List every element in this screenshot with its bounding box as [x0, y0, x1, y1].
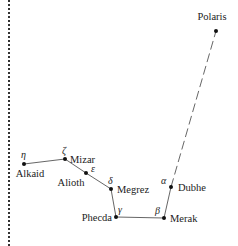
star-megrez-icon	[109, 187, 113, 191]
label-phecda: Phecda	[82, 212, 113, 223]
greek-mizar: ζ	[62, 145, 67, 157]
greek-megrez: δ	[108, 175, 113, 186]
label-dubhe: Dubhe	[178, 182, 206, 193]
greek-merak: β	[154, 205, 160, 216]
star-dubhe-icon	[169, 185, 173, 189]
label-megrez: Megrez	[117, 184, 149, 195]
star-mizar-icon	[63, 157, 67, 161]
star-merak-icon	[162, 216, 166, 220]
dashed-pointer-line-to-polaris	[171, 31, 216, 187]
line-phecda-merak	[116, 217, 164, 218]
line-alkaid-mizar	[24, 159, 65, 164]
greek-phecda: γ	[118, 204, 123, 215]
label-alioth: Alioth	[58, 177, 86, 188]
star-alkaid-icon	[22, 162, 26, 166]
star-alioth-icon	[84, 171, 88, 175]
star-phecda-icon	[114, 215, 118, 219]
greek-alkaid: η	[21, 149, 26, 160]
label-alkaid: Alkaid	[16, 168, 45, 179]
label-mizar: Mizar	[70, 154, 96, 165]
greek-dubhe: α	[161, 175, 167, 186]
label-merak: Merak	[170, 213, 198, 224]
label-polaris: Polaris	[197, 11, 226, 22]
star-polaris-icon	[214, 29, 218, 33]
constellation-diagram: Polaris α Dubhe β Merak γ Phecda δ Megre…	[0, 0, 238, 246]
